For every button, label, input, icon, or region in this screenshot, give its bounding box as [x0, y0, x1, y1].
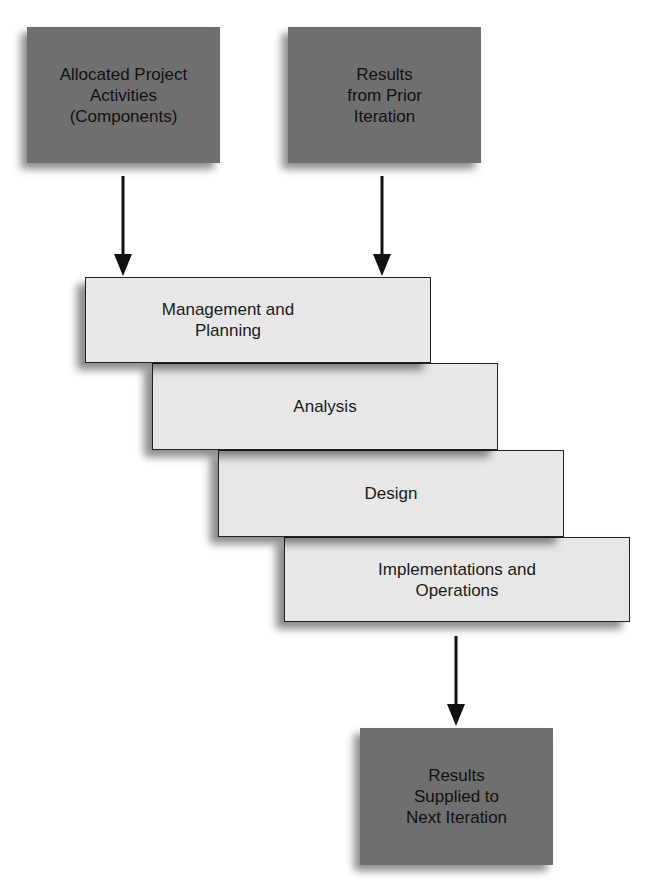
arrow-implementation-to-output — [447, 636, 465, 726]
phase-implementations-operations: Implementations and Operations — [284, 537, 630, 622]
phase-design: Design — [218, 450, 564, 537]
phase-label: Management and Planning — [162, 299, 294, 341]
prior-results-box: Results from Prior Iteration — [288, 27, 481, 163]
prior-results-label: Results from Prior Iteration — [347, 64, 422, 127]
allocated-activities-label: Allocated Project Activities (Components… — [60, 64, 188, 127]
next-iteration-results-box: Results Supplied to Next Iteration — [360, 728, 553, 865]
arrow-allocated-to-management — [114, 176, 132, 276]
phase-label: Design — [365, 483, 418, 504]
phase-label: Analysis — [293, 396, 356, 417]
allocated-activities-box: Allocated Project Activities (Components… — [27, 27, 220, 163]
next-iteration-results-label: Results Supplied to Next Iteration — [406, 765, 507, 828]
phase-management-planning: Management and Planning — [85, 277, 431, 363]
phase-label: Implementations and Operations — [378, 559, 536, 601]
arrow-prior-to-management — [373, 176, 391, 276]
phase-analysis: Analysis — [152, 363, 498, 450]
